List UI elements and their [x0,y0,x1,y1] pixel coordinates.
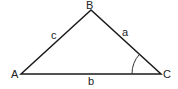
angle-arc-c [132,54,140,74]
vertex-label-a: A [11,68,19,80]
side-label-a: a [122,26,129,38]
side-label-c: c [51,29,57,41]
vertex-label-b: B [86,0,93,11]
side-label-b: b [88,75,94,87]
vertex-label-c: C [163,68,171,80]
triangle-diagram: B A C c a b [0,0,178,89]
triangle [21,10,161,74]
